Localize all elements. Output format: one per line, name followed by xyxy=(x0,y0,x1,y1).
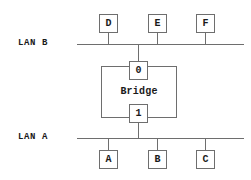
node-b-label: B xyxy=(154,155,160,165)
node-c[interactable]: C xyxy=(196,150,215,169)
bridge-port-0[interactable]: 0 xyxy=(129,61,148,80)
node-b[interactable]: B xyxy=(148,150,167,169)
node-f-connector xyxy=(205,33,206,44)
node-c-connector xyxy=(205,138,206,150)
node-d-label: D xyxy=(105,19,111,29)
bridge-port-1[interactable]: 1 xyxy=(129,104,148,123)
lan-a-bus-line xyxy=(77,138,244,139)
lan-b-label: LAN B xyxy=(18,38,48,49)
node-f-label: F xyxy=(202,19,208,29)
node-e-label: E xyxy=(154,19,160,29)
bridge-port-0-label: 0 xyxy=(135,66,141,76)
node-e-connector xyxy=(157,33,158,44)
node-d[interactable]: D xyxy=(99,14,118,33)
node-a-label: A xyxy=(105,155,111,165)
port-0-connector xyxy=(138,44,139,61)
bridge-port-1-label: 1 xyxy=(135,109,141,119)
bridge-label: Bridge xyxy=(102,86,176,97)
node-d-connector xyxy=(108,33,109,44)
node-c-label: C xyxy=(202,155,208,165)
node-f[interactable]: F xyxy=(196,14,215,33)
node-b-connector xyxy=(157,138,158,150)
node-e[interactable]: E xyxy=(148,14,167,33)
node-a[interactable]: A xyxy=(99,150,118,169)
lan-b-bus-line xyxy=(77,44,244,45)
node-a-connector xyxy=(108,138,109,150)
lan-a-label: LAN A xyxy=(18,132,48,143)
port-1-connector xyxy=(138,123,139,138)
network-diagram: LAN B LAN A D E F A B C Bridge 0 1 xyxy=(0,0,251,180)
